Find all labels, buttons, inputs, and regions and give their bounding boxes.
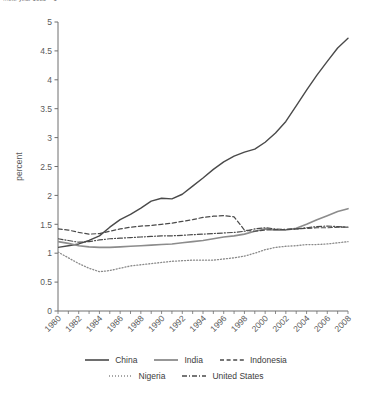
legend-item-china[interactable]: China xyxy=(84,355,137,365)
chart-svg: 00.511.522.533.544.55percent198019821984… xyxy=(0,0,371,352)
x-tick-label: 1990 xyxy=(146,313,167,334)
chart-legend: China India Indonesia Nigeria United Sta… xyxy=(0,352,371,394)
x-tick-label: 2006 xyxy=(312,313,333,334)
x-tick-label: 1986 xyxy=(105,313,126,334)
x-tick-label: 1994 xyxy=(187,313,208,334)
y-tick-label: 0.5 xyxy=(40,277,52,287)
legend-label-indonesia: Indonesia xyxy=(250,355,287,365)
y-tick-label: 4 xyxy=(47,75,52,85)
x-tick-label: 2000 xyxy=(250,313,271,334)
legend-label-india: India xyxy=(184,355,202,365)
legend-item-indonesia[interactable]: Indonesia xyxy=(219,355,287,365)
y-axis-title: percent xyxy=(14,152,24,181)
series-line-china xyxy=(58,38,348,247)
series-line-nigeria xyxy=(58,242,348,272)
legend-item-united-states[interactable]: United States xyxy=(181,371,263,381)
legend-label-china: China xyxy=(115,355,137,365)
x-tick-label: 1984 xyxy=(84,313,105,334)
x-tick-label: 1988 xyxy=(125,313,146,334)
legend-label-united-states: United States xyxy=(212,371,263,381)
legend-item-india[interactable]: India xyxy=(153,355,202,365)
y-tick-label: 0 xyxy=(47,306,52,316)
line-chart: 00.511.522.533.544.55percent198019821984… xyxy=(0,0,371,352)
legend-item-nigeria[interactable]: Nigeria xyxy=(108,371,166,381)
y-tick-label: 5 xyxy=(47,17,52,27)
x-tick-label: 1996 xyxy=(208,313,229,334)
legend-swatch-india xyxy=(153,356,179,364)
x-tick-label: 1998 xyxy=(229,313,250,334)
x-tick-label: 1982 xyxy=(63,313,84,334)
y-tick-label: 4.5 xyxy=(40,46,52,56)
legend-label-nigeria: Nigeria xyxy=(139,371,166,381)
legend-swatch-united-states xyxy=(181,372,207,380)
x-tick-label: 2008 xyxy=(332,313,353,334)
x-tick-label: 1992 xyxy=(167,313,188,334)
legend-row-1: China India Indonesia xyxy=(0,352,371,368)
legend-swatch-indonesia xyxy=(219,356,245,364)
legend-swatch-china xyxy=(84,356,110,364)
x-tick-label: 2004 xyxy=(291,313,312,334)
x-tick-label: 1980 xyxy=(42,313,63,334)
legend-swatch-nigeria xyxy=(108,372,134,380)
y-tick-label: 2.5 xyxy=(40,162,52,172)
y-tick-label: 1 xyxy=(47,248,52,258)
y-tick-label: 1.5 xyxy=(40,220,52,230)
y-tick-label: 3 xyxy=(47,133,52,143)
x-tick-label: 2002 xyxy=(270,313,291,334)
y-tick-label: 2 xyxy=(47,191,52,201)
y-tick-label: 3.5 xyxy=(40,104,52,114)
legend-row-2: Nigeria United States xyxy=(0,368,371,384)
